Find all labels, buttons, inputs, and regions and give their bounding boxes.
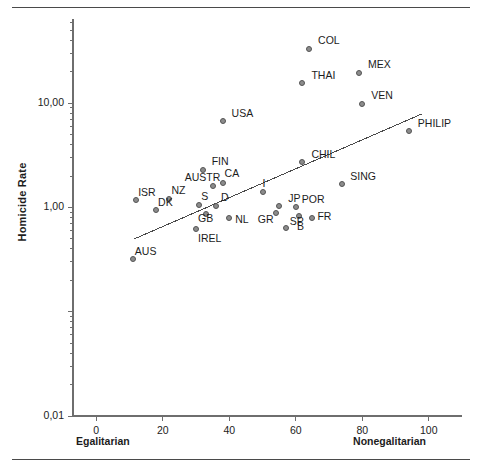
data-point-label: GB bbox=[198, 213, 213, 224]
data-point-marker bbox=[293, 204, 299, 210]
data-point-label: AUSTR bbox=[185, 172, 221, 183]
figure-container: Homicide Rate 10,001,000,01 020406080100… bbox=[0, 0, 482, 471]
y-tick-label: 1,00 bbox=[20, 200, 64, 212]
data-point-label: POR bbox=[302, 194, 325, 205]
data-point-label: MEX bbox=[368, 59, 391, 70]
data-point-label: FR bbox=[317, 211, 331, 222]
data-point-label: CA bbox=[225, 168, 240, 179]
data-point-label: PHILIP bbox=[418, 118, 451, 129]
data-point-label: COL bbox=[318, 35, 340, 46]
x-axis-right-label: Nonegalitarian bbox=[353, 435, 426, 447]
data-point-marker bbox=[406, 128, 412, 134]
data-point-marker bbox=[220, 118, 226, 124]
data-point-label: AUS bbox=[135, 246, 157, 257]
data-point-label: S bbox=[201, 191, 208, 202]
data-point-marker bbox=[309, 215, 315, 221]
data-point-label: NL bbox=[235, 214, 248, 225]
data-point-label: GR bbox=[258, 214, 274, 225]
data-point-label: THAI bbox=[311, 70, 335, 81]
data-point-label: USA bbox=[232, 108, 254, 119]
x-tick-label: 40 bbox=[212, 424, 246, 436]
data-point-label: ISR bbox=[138, 187, 156, 198]
data-point-marker bbox=[276, 203, 282, 209]
data-point-label: SP bbox=[290, 216, 304, 227]
data-point-label: NZ bbox=[171, 185, 185, 196]
x-tick-label: 20 bbox=[146, 424, 180, 436]
data-point-marker bbox=[359, 101, 365, 107]
data-point-label: JP bbox=[288, 193, 300, 204]
data-point-label: DK bbox=[158, 197, 173, 208]
regression-line bbox=[135, 114, 423, 239]
trend-line bbox=[135, 114, 423, 239]
data-point-label: FIN bbox=[212, 156, 229, 167]
data-point-marker bbox=[283, 225, 289, 231]
data-point-marker bbox=[213, 203, 219, 209]
data-point-label: CHIL bbox=[311, 149, 335, 160]
data-point-label: IREL bbox=[198, 233, 221, 244]
y-tick-label: 10,00 bbox=[20, 96, 64, 108]
data-point-marker bbox=[356, 70, 362, 76]
data-point-label: D bbox=[221, 192, 229, 203]
data-point-marker bbox=[210, 183, 216, 189]
data-point-label: SING bbox=[350, 171, 376, 182]
scatter-plot-canvas bbox=[0, 0, 482, 471]
data-point-marker bbox=[226, 215, 232, 221]
data-point-label: VEN bbox=[371, 90, 393, 101]
x-tick-label: 60 bbox=[279, 424, 313, 436]
data-point-marker bbox=[260, 189, 266, 195]
y-tick-label: 0,01 bbox=[20, 409, 64, 421]
data-point-label: I bbox=[263, 178, 266, 189]
x-axis-left-label: Egalitarian bbox=[76, 435, 130, 447]
